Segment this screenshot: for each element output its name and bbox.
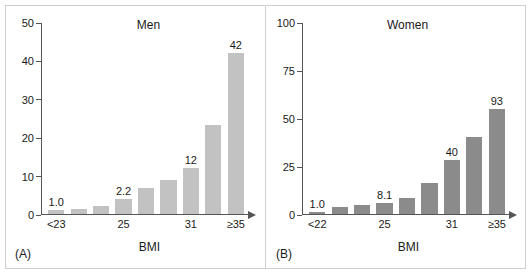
y-tick-women-0 (297, 215, 302, 216)
bar-women-5 (421, 183, 437, 214)
panel-men: Men 010203040501.02.21242<232531≥35 BMI … (5, 5, 270, 269)
bar-value-label-men-3: 2.2 (116, 186, 131, 197)
panel-tag-b: (B) (276, 248, 292, 260)
y-tick-men-10 (36, 176, 41, 177)
bar-value-label-men-6: 12 (185, 155, 197, 166)
bar-value-label-men-0: 1.0 (49, 197, 64, 208)
y-tick-label-men-0: 0 (28, 210, 34, 221)
bar-value-label-women-3: 8.1 (377, 190, 392, 201)
y-tick-women-75 (297, 71, 302, 72)
bar-men-3: 2.2 (115, 199, 131, 214)
bar-value-label-women-8: 93 (491, 96, 503, 107)
y-tick-label-women-25: 25 (283, 162, 295, 173)
y-tick-label-women-50: 50 (283, 114, 295, 125)
y-tick-label-men-20: 20 (22, 133, 34, 144)
x-axis-title-women: BMI (266, 241, 531, 253)
x-tick-label-men-2: 31 (185, 219, 197, 230)
bar-men-5 (160, 180, 176, 214)
y-tick-women-50 (297, 119, 302, 120)
x-axis-women (302, 214, 510, 215)
y-axis-women (302, 23, 303, 215)
bar-men-6: 12 (183, 168, 199, 214)
y-tick-label-women-0: 0 (289, 210, 295, 221)
y-tick-label-men-30: 30 (22, 94, 34, 105)
y-tick-men-0 (36, 215, 41, 216)
bar-men-1 (71, 209, 87, 214)
y-tick-label-women-75: 75 (283, 66, 295, 77)
y-tick-women-100 (297, 23, 302, 24)
bar-women-1 (332, 207, 348, 214)
bar-value-label-women-0: 1.0 (310, 199, 325, 210)
y-tick-men-50 (36, 23, 41, 24)
panel-tag-a: (A) (15, 248, 31, 260)
x-tick-label-men-0: <23 (47, 219, 66, 230)
x-axis-arrow-men (248, 211, 256, 219)
bar-men-7 (205, 125, 221, 214)
y-axis-men (41, 23, 42, 215)
x-axis-men (41, 214, 249, 215)
x-tick-label-men-3: ≥35 (227, 219, 245, 230)
y-tick-label-men-50: 50 (22, 18, 34, 29)
y-tick-label-men-40: 40 (22, 56, 34, 67)
plot-area-women: 02550751001.08.14093<222531≥35 (302, 23, 514, 215)
x-tick-label-women-3: ≥35 (488, 219, 506, 230)
bar-women-2 (354, 205, 370, 214)
bar-men-4 (138, 188, 154, 214)
y-tick-women-25 (297, 167, 302, 168)
figure-root: Men 010203040501.02.21242<232531≥35 BMI … (0, 0, 531, 274)
panel-women: Women 02550751001.08.14093<222531≥35 BMI… (266, 5, 531, 269)
bar-men-8: 42 (228, 53, 244, 214)
y-tick-label-men-10: 10 (22, 171, 34, 182)
x-tick-label-women-0: <22 (308, 219, 327, 230)
bar-women-7 (466, 137, 482, 214)
bar-value-label-women-6: 40 (446, 147, 458, 158)
x-axis-arrow-women (509, 211, 517, 219)
y-tick-men-20 (36, 138, 41, 139)
x-tick-label-men-1: 25 (117, 219, 129, 230)
bar-women-0: 1.0 (309, 212, 325, 214)
bar-men-0: 1.0 (48, 210, 64, 214)
bar-men-2 (93, 206, 109, 214)
bar-women-3: 8.1 (376, 203, 392, 214)
x-tick-label-women-1: 25 (378, 219, 390, 230)
bar-women-8: 93 (489, 109, 505, 214)
plot-area-men: 010203040501.02.21242<232531≥35 (41, 23, 253, 215)
x-axis-title-men: BMI (5, 241, 270, 253)
y-tick-men-40 (36, 61, 41, 62)
bar-women-4 (399, 198, 415, 214)
bar-value-label-men-8: 42 (230, 40, 242, 51)
y-tick-label-women-100: 100 (277, 18, 295, 29)
x-tick-label-women-2: 31 (446, 219, 458, 230)
bar-women-6: 40 (444, 160, 460, 214)
y-tick-men-30 (36, 99, 41, 100)
